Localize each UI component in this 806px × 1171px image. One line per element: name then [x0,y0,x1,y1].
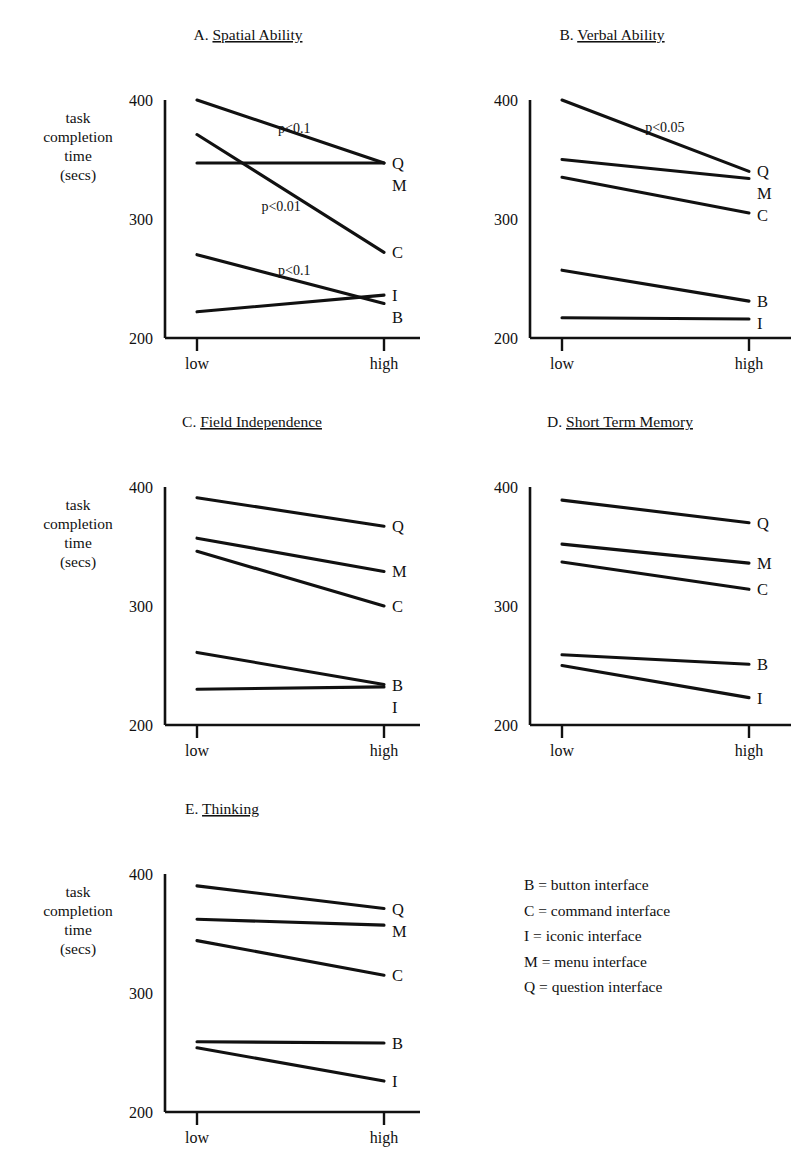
figure-root: A. Spatial Abilitytaskcompletiontime(sec… [0,0,806,1171]
panel-d-title: D. Short Term Memory [547,413,693,430]
interface-legend: B = button interface C = command interfa… [524,872,794,1000]
svg-text:task: task [66,883,91,900]
svg-text:low: low [550,742,574,759]
series-label-Q: Q [757,162,769,181]
panel-e-plot: E. Thinkingtaskcompletiontime(secs)20030… [0,792,430,1162]
svg-text:high: high [370,742,398,760]
svg-text:D. Short Term Memory: D. Short Term Memory [547,413,693,430]
series-labels: QMCBI [757,514,772,708]
panel-a-title: A. Spatial Ability [194,26,303,43]
svg-text:completion: completion [43,128,113,145]
panel-d-plot: D. Short Term Memory200300400lowhighQMCB… [420,405,806,775]
svg-text:B. Verbal Ability: B. Verbal Ability [559,26,664,43]
svg-text:low: low [185,742,209,759]
y-tick-labels: 200300400 [129,866,153,1121]
series-label-I: I [757,689,763,708]
panel-e-thinking: E. Thinkingtaskcompletiontime(secs)20030… [0,792,430,1162]
series-label-C: C [757,580,768,599]
y-tick-labels: 200300400 [494,479,518,734]
svg-text:completion: completion [43,515,113,532]
series-label-C: C [392,966,403,985]
significance-annotations: p<0.05 [645,120,684,135]
series-label-C: C [392,597,403,616]
series-label-M: M [392,562,407,581]
x-tick-labels: lowhigh [185,725,398,760]
series-label-M: M [392,176,407,195]
series-line-C [197,941,384,976]
svg-text:high: high [735,355,763,373]
series-line-B [197,652,384,684]
p-value-annotation: p<0.01 [261,199,300,214]
y-tick-labels: 200300400 [129,92,153,347]
series-label-I: I [392,698,398,717]
series-line-M [197,538,384,571]
svg-text:E. Thinking: E. Thinking [185,800,259,817]
svg-text:400: 400 [129,92,153,109]
data-series [197,886,384,1081]
svg-text:300: 300 [494,211,518,228]
svg-text:200: 200 [129,330,153,347]
series-line-B [562,270,749,301]
data-series [197,498,384,690]
series-line-Q [197,498,384,527]
p-value-annotation: p<0.1 [278,263,310,278]
svg-text:high: high [370,355,398,373]
series-labels: QMCBI [392,517,407,716]
svg-text:completion: completion [43,902,113,919]
series-line-Q [562,500,749,523]
panel-d-short-term-memory: D. Short Term Memory200300400lowhighQMCB… [420,405,806,775]
svg-text:300: 300 [129,985,153,1002]
svg-text:low: low [185,1129,209,1146]
y-axis-label: taskcompletiontime(secs) [43,496,113,571]
y-tick-labels: 200300400 [129,479,153,734]
series-labels: QMCBI [392,900,407,1092]
series-labels: QMCIB [392,154,407,327]
legend-item: B = button interface [524,872,794,898]
axes [530,100,791,338]
panel-b-title: B. Verbal Ability [559,26,664,43]
series-label-B: B [392,1034,403,1053]
svg-text:(secs): (secs) [60,166,96,184]
series-label-M: M [757,554,772,573]
series-label-I: I [392,1072,398,1091]
p-value-annotation: p<0.05 [645,120,684,135]
y-axis-label: taskcompletiontime(secs) [43,109,113,184]
series-label-Q: Q [392,154,404,173]
series-line-I [562,666,749,698]
panel-c-title: C. Field Independence [182,413,322,430]
legend-item: I = iconic interface [524,923,794,949]
series-line-C [562,562,749,589]
series-line-I [562,318,749,319]
series-line-Q [197,886,384,909]
svg-text:high: high [735,742,763,760]
series-line-M [562,544,749,563]
series-label-M: M [392,922,407,941]
legend-item: C = command interface [524,898,794,924]
legend-item: Q = question interface [524,974,794,1000]
panel-c-plot: C. Field Independencetaskcompletiontime(… [0,405,430,775]
svg-text:high: high [370,1129,398,1147]
svg-text:200: 200 [494,717,518,734]
series-line-I [197,1048,384,1081]
svg-text:300: 300 [129,211,153,228]
series-label-Q: Q [392,900,404,919]
series-label-B: B [392,308,403,327]
panel-a-spatial-ability: A. Spatial Abilitytaskcompletiontime(sec… [0,18,430,388]
panel-b-verbal-ability: B. Verbal Ability200300400lowhighQMCBIp<… [420,18,806,388]
data-series [562,500,749,698]
svg-text:200: 200 [129,717,153,734]
svg-text:(secs): (secs) [60,553,96,571]
svg-text:time: time [64,147,92,164]
series-line-I [197,687,384,689]
x-tick-labels: lowhigh [185,1112,398,1147]
series-line-Q [562,100,749,171]
series-line-B [197,1042,384,1043]
svg-text:400: 400 [129,866,153,883]
panel-a-plot: A. Spatial Abilitytaskcompletiontime(sec… [0,18,430,388]
series-line-M [562,160,749,179]
y-tick-labels: 200300400 [494,92,518,347]
svg-text:400: 400 [494,479,518,496]
svg-text:time: time [64,921,92,938]
series-label-I: I [757,314,763,333]
x-tick-labels: lowhigh [185,338,398,373]
